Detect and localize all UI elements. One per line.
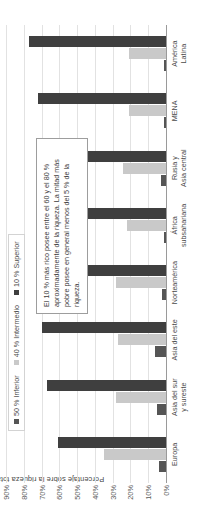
category-label: Asia del este: [168, 311, 198, 368]
bar: [164, 117, 166, 128]
legend-swatch-icon: [14, 290, 19, 295]
bar: [127, 220, 166, 231]
y-tick-label: 60%: [55, 485, 64, 500]
bar: [42, 322, 166, 333]
legend-label: 50 % Inferior: [12, 375, 21, 416]
category-label: Norteamérica: [168, 254, 198, 311]
category-label: Europa: [168, 426, 198, 483]
bar: [29, 36, 166, 47]
y-tick-label: 30%: [108, 485, 117, 500]
legend-item: 10 % Superior: [12, 241, 21, 295]
bar: [162, 289, 166, 300]
annotation-callout: El 10 % más rico posee entre el 60 y el …: [36, 138, 88, 314]
bar-group: [6, 82, 166, 139]
bar: [159, 461, 166, 472]
bar: [116, 277, 166, 288]
chart-legend: 50 % Inferior40 % Intermedio10 % Superio…: [8, 234, 25, 431]
y-tick-label: 20%: [126, 485, 135, 500]
bar: [164, 232, 166, 243]
bar-group: [6, 426, 166, 483]
y-tick-label: 10%: [144, 485, 153, 500]
gridline: [166, 25, 167, 483]
category-label: AméricaLatina: [168, 25, 198, 82]
bar: [155, 346, 166, 357]
bar-group: [6, 311, 166, 368]
legend-item: 40 % Intermedio: [12, 305, 21, 365]
y-tick-label: 80%: [19, 485, 28, 500]
bar: [47, 380, 166, 391]
category-axis-labels: EuropaAsia del sury suresteAsia del este…: [168, 25, 198, 483]
bar: [58, 437, 166, 448]
legend-label: 10 % Superior: [12, 241, 21, 287]
category-label: Asia del sury sureste: [168, 369, 198, 426]
y-tick-label: 90%: [2, 485, 11, 500]
bar: [123, 163, 166, 174]
bar: [129, 105, 166, 116]
legend-label: 40 % Intermedio: [12, 305, 21, 357]
bar: [164, 60, 166, 71]
y-tick-label: 0%: [162, 485, 171, 496]
bar: [104, 449, 166, 460]
bar-group: [6, 25, 166, 82]
legend-swatch-icon: [14, 419, 19, 424]
bar: [116, 392, 166, 403]
bar: [118, 334, 166, 345]
y-axis-tick-labels: 0%10%20%30%40%50%60%70%80%90%: [6, 485, 166, 509]
legend-item: 50 % Inferior: [12, 375, 21, 424]
bar: [129, 48, 166, 59]
wealth-distribution-bar-chart: Porcentaje sobre la riqueza total (%) 0%…: [0, 0, 219, 527]
rotated-figure-wrapper: Porcentaje sobre la riqueza total (%) 0%…: [0, 0, 219, 527]
category-label: MENA: [168, 82, 198, 139]
bar: [161, 175, 166, 186]
y-tick-label: 50%: [73, 485, 82, 500]
bar: [157, 404, 166, 415]
y-tick-label: 70%: [37, 485, 46, 500]
category-label: Áfricasubsahariana: [168, 197, 198, 254]
legend-swatch-icon: [14, 360, 19, 365]
bar-group: [6, 369, 166, 426]
category-label: Rusia yAsia central: [168, 140, 198, 197]
y-tick-label: 40%: [90, 485, 99, 500]
bar: [38, 93, 166, 104]
